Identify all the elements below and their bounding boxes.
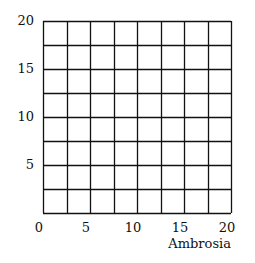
grid-lines (43, 21, 232, 214)
x-tick-label: 5 (82, 220, 90, 235)
y-tick-label: 15 (17, 61, 34, 76)
x-tick-label: 0 (35, 220, 43, 235)
y-tick-label: 5 (26, 157, 34, 172)
empty-grid-chart: 05101520 5101520 Ambrosia (0, 0, 255, 263)
x-axis-label: Ambrosia (167, 236, 231, 251)
x-tick-label: 10 (125, 220, 142, 235)
y-tick-label: 10 (17, 109, 34, 124)
x-axis-tick-labels: 05101520 (35, 220, 235, 235)
y-axis-tick-labels: 5101520 (17, 13, 34, 172)
x-tick-label: 15 (172, 220, 189, 235)
y-tick-label: 20 (17, 13, 34, 28)
x-tick-label: 20 (219, 220, 236, 235)
